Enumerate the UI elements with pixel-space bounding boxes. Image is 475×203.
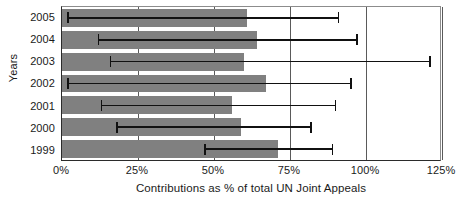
gridline — [442, 7, 443, 160]
error-bar-line — [98, 39, 356, 41]
error-bar-row — [62, 138, 440, 160]
x-axis-tick-label: 100% — [351, 164, 380, 176]
error-bar-row — [62, 116, 440, 138]
error-bar-line — [102, 105, 336, 107]
plot-area — [61, 6, 441, 161]
error-bar-cap — [332, 144, 334, 155]
error-bar-line — [205, 148, 333, 150]
x-axis-tick-label: 0% — [53, 164, 69, 176]
error-bar-row — [62, 73, 440, 95]
error-bars-layer — [62, 7, 440, 160]
error-bar-cap — [116, 122, 118, 133]
y-axis-tick-label: 2000 — [24, 117, 58, 139]
error-bar-line — [117, 126, 312, 128]
x-axis-title: Contributions as % of total UN Joint App… — [61, 182, 441, 194]
error-bar-line — [111, 61, 430, 63]
bar-chart: Years 2005200420032002200120001999 0%25%… — [0, 0, 475, 203]
x-axis-tick-label: 125% — [427, 164, 456, 176]
error-bar-line — [68, 17, 339, 19]
error-bar-cap — [98, 34, 100, 45]
error-bar-cap — [350, 78, 352, 89]
error-bar-cap — [110, 56, 112, 67]
x-axis-tick-label: 25% — [126, 164, 148, 176]
error-bar-row — [62, 51, 440, 73]
error-bar-cap — [67, 12, 69, 23]
error-bar-row — [62, 94, 440, 116]
x-axis-tick-label: 75% — [278, 164, 300, 176]
error-bar-cap — [335, 100, 337, 111]
error-bar-cap — [101, 100, 103, 111]
error-bar-cap — [204, 144, 206, 155]
error-bar-cap — [67, 78, 69, 89]
error-bar-row — [62, 7, 440, 29]
error-bar-cap — [310, 122, 312, 133]
error-bar-cap — [429, 56, 431, 67]
y-axis-tick-label: 2003 — [24, 50, 58, 72]
x-axis-tick-labels: 0%25%50%75%100%125% — [61, 164, 441, 178]
error-bar-cap — [356, 34, 358, 45]
y-axis-tick-label: 2005 — [24, 6, 58, 28]
error-bar-cap — [338, 12, 340, 23]
y-axis-tick-labels: 2005200420032002200120001999 — [24, 6, 58, 161]
error-bar-line — [68, 83, 351, 85]
y-axis-tick-label: 2002 — [24, 72, 58, 94]
y-axis-tick-label: 2001 — [24, 95, 58, 117]
y-axis-title: Years — [7, 33, 19, 103]
error-bar-row — [62, 29, 440, 51]
x-axis-tick-label: 50% — [202, 164, 224, 176]
y-axis-tick-label: 2004 — [24, 28, 58, 50]
y-axis-tick-label: 1999 — [24, 139, 58, 161]
